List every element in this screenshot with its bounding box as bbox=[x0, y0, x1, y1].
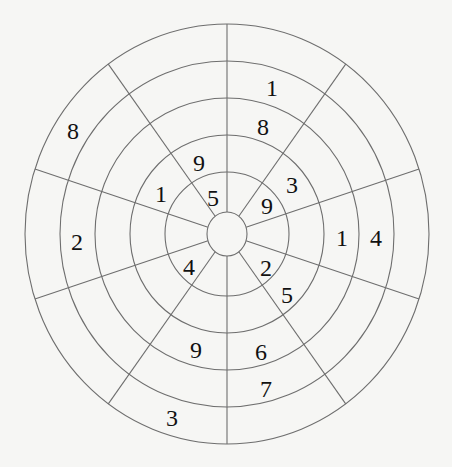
cell-number[interactable]: 8 bbox=[67, 118, 79, 144]
cell-number[interactable]: 9 bbox=[261, 193, 273, 219]
cell-number[interactable]: 4 bbox=[183, 254, 195, 280]
cell-number[interactable]: 7 bbox=[260, 376, 272, 402]
cell-number[interactable]: 5 bbox=[207, 185, 219, 211]
cell-number[interactable]: 9 bbox=[190, 337, 202, 363]
spoke-line bbox=[108, 252, 215, 404]
cell-number[interactable]: 2 bbox=[260, 255, 272, 281]
cell-number[interactable]: 1 bbox=[266, 75, 278, 101]
cell-number[interactable]: 3 bbox=[166, 405, 178, 431]
cell-number[interactable]: 9 bbox=[193, 150, 205, 176]
cell-number[interactable]: 3 bbox=[286, 172, 298, 198]
center-hub bbox=[207, 212, 247, 256]
cell-number[interactable]: 1 bbox=[155, 181, 167, 207]
cell-number[interactable]: 2 bbox=[71, 229, 83, 255]
cell-number[interactable]: 5 bbox=[281, 282, 293, 308]
number-wheel-puzzle: 1 8 3 9 1 4 2 5 6 7 3 9 4 2 1 5 9 8 bbox=[0, 0, 452, 467]
cell-number[interactable]: 1 bbox=[336, 225, 348, 251]
cell-number[interactable]: 8 bbox=[257, 114, 269, 140]
cell-number[interactable]: 6 bbox=[255, 339, 267, 365]
cell-number[interactable]: 4 bbox=[370, 225, 382, 251]
spoke-line bbox=[239, 252, 346, 404]
